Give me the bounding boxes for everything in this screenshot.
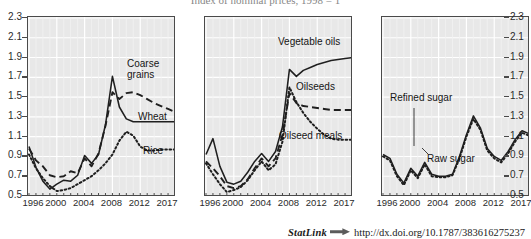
x-tick-label: 1996 xyxy=(376,198,397,208)
price-index-figure: Index of nominal prices, 1998 = 1 2.32.1… xyxy=(0,0,531,239)
y-tick-mark xyxy=(504,195,509,196)
y-tick-label: 1.3 xyxy=(510,111,524,121)
x-axis-cereals: 199620002004200820122017 xyxy=(27,198,175,214)
y-tick-label: 1.9 xyxy=(510,52,524,62)
statlink-url[interactable]: http://dx.doi.org/10.1787/383616275237 xyxy=(354,227,525,238)
y-tick-label: 1.5 xyxy=(510,91,524,101)
annotation-leaders-sugar xyxy=(414,108,428,154)
y-tick-label: 1.3 xyxy=(8,111,22,121)
series-label-refined-sugar: Refined sugar xyxy=(390,92,452,103)
x-axis-oilseeds: 199620002004200820122017 xyxy=(204,198,352,214)
plot-area-cereals: Coarse grains Wheat Rice xyxy=(27,16,175,196)
x-tick-label: 1996 xyxy=(199,198,220,208)
x-tick-label: 2000 xyxy=(399,198,420,208)
x-tick-label: 2008 xyxy=(278,198,299,208)
plot-area-oilseeds: Vegetable oils Oilseeds Oilseed meals xyxy=(204,16,352,196)
x-tick-label: 2000 xyxy=(222,198,243,208)
series-label-wheat: Wheat xyxy=(138,111,167,122)
y-tick-label: 0.5 xyxy=(510,190,524,200)
y-tick-label: 1.7 xyxy=(510,71,524,81)
coarse-grains-label-line1: Coarse xyxy=(127,58,159,69)
x-tick-label: 2004 xyxy=(427,198,448,208)
y-tick-label: 2.3 xyxy=(8,12,22,22)
series-label-vegetable-oils: Vegetable oils xyxy=(278,36,340,47)
y-tick-label: 2.1 xyxy=(8,32,22,42)
x-tick-label: 2004 xyxy=(250,198,271,208)
y-axis-right: 2.32.11.91.71.51.31.10.90.70.5 xyxy=(505,16,531,196)
y-tick-label: 0.7 xyxy=(8,170,22,180)
y-tick-mark xyxy=(504,175,509,176)
y-tick-label: 1.1 xyxy=(8,131,22,141)
series-label-oilseeds: Oilseeds xyxy=(296,81,335,92)
y-tick-label: 1.1 xyxy=(510,131,524,141)
panel-cereals: Coarse grains Wheat Rice xyxy=(27,16,175,196)
series-lines-cereals xyxy=(29,76,175,191)
series-line-coarse-grains xyxy=(29,92,175,177)
x-tick-label: 2008 xyxy=(101,198,122,208)
x-tick-label: 2000 xyxy=(45,198,66,208)
y-tick-label: 0.9 xyxy=(510,150,524,160)
y-tick-mark xyxy=(504,155,509,156)
y-tick-label: 1.5 xyxy=(8,91,22,101)
x-tick-label: 2017 xyxy=(156,198,177,208)
y-tick-label: 0.7 xyxy=(510,170,524,180)
x-tick-label: 2012 xyxy=(306,198,327,208)
y-tick-mark xyxy=(504,17,509,18)
series-line-vegetable-oils xyxy=(206,58,352,185)
statlink-row: StatLinkhttp://dx.doi.org/10.1787/383616… xyxy=(0,222,531,238)
y-tick-mark xyxy=(504,96,509,97)
y-axis-left: 2.32.11.91.71.51.31.10.90.70.5 xyxy=(0,16,26,196)
y-tick-label: 1.9 xyxy=(8,52,22,62)
series-label-coarse-grains: Coarse grains xyxy=(127,59,169,80)
x-tick-label: 2012 xyxy=(483,198,504,208)
y-tick-label: 1.7 xyxy=(8,71,22,81)
series-line-wheat xyxy=(29,76,175,189)
panel-oilseeds: Vegetable oils Oilseeds Oilseed meals xyxy=(204,16,352,196)
series-label-rice: Rice xyxy=(143,145,163,156)
statlink-label: StatLink xyxy=(288,227,327,238)
y-tick-mark xyxy=(504,136,509,137)
x-tick-label: 2008 xyxy=(455,198,476,208)
y-tick-label: 0.9 xyxy=(8,150,22,160)
gridlines-cereals xyxy=(28,17,175,196)
statlink-arrow-icon xyxy=(330,228,350,235)
x-tick-label: 2012 xyxy=(129,198,150,208)
x-axis-sugar: 199620002004200820122017 xyxy=(381,198,529,214)
y-tick-mark xyxy=(504,116,509,117)
x-tick-label: 1996 xyxy=(22,198,43,208)
figure-title: Index of nominal prices, 1998 = 1 xyxy=(0,0,531,6)
y-tick-mark xyxy=(504,76,509,77)
x-tick-label: 2017 xyxy=(333,198,354,208)
chart-svg-cereals xyxy=(28,17,175,196)
y-tick-label: 2.3 xyxy=(510,12,524,22)
x-tick-label: 2004 xyxy=(73,198,94,208)
coarse-grains-label-line2: grains xyxy=(127,69,154,80)
series-label-oilseed-meals: Oilseed meals xyxy=(279,130,342,141)
y-tick-mark xyxy=(504,57,509,58)
y-tick-mark xyxy=(504,37,509,38)
y-tick-label: 2.1 xyxy=(510,32,524,42)
series-label-raw-sugar: Raw sugar xyxy=(427,153,475,164)
y-tick-label: 0.5 xyxy=(8,190,22,200)
